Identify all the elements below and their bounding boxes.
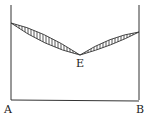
left-two-phase-region xyxy=(11,23,80,55)
composition-axis xyxy=(11,100,139,101)
right-two-phase-region xyxy=(80,32,139,55)
component-a-label: A xyxy=(4,104,12,115)
component-b-label: B xyxy=(136,104,144,115)
eutectic-label: E xyxy=(76,58,84,69)
